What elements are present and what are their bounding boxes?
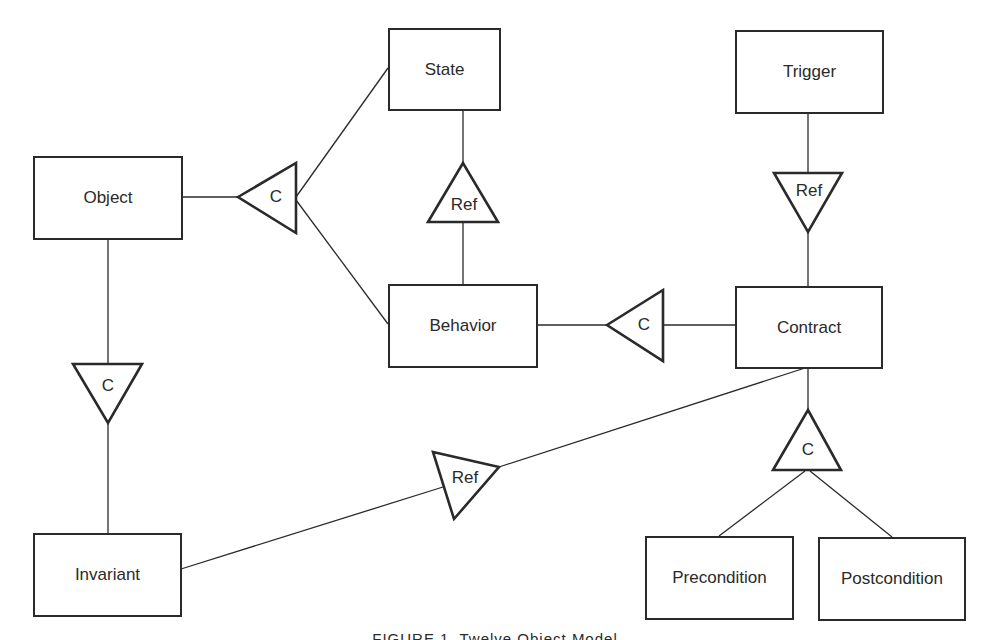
relationship-label: Ref [452,468,478,488]
composition-triangle [607,290,663,361]
entity-label: State [425,60,465,80]
connector-line [719,471,805,536]
relationship-label: C [102,376,114,396]
relationship-label: C [638,315,650,335]
connector-line [499,368,805,467]
relationship-label: C [270,187,282,207]
connector-line [296,68,388,197]
entity-invariant: Invariant [33,533,182,617]
composition-triangle [238,163,296,233]
entity-label: Invariant [75,565,140,585]
entity-precondition: Precondition [645,536,794,620]
entity-contract: Contract [735,286,883,369]
entity-object: Object [33,156,183,240]
entity-label: Precondition [672,568,767,588]
entity-label: Behavior [429,316,496,336]
entity-label: Contract [777,318,841,338]
relationship-label: Ref [451,195,477,215]
entity-state: State [388,28,501,111]
entity-postcondition: Postcondition [818,537,966,621]
connector-line [181,487,443,569]
entity-label: Trigger [783,62,836,82]
er-diagram: State Trigger Object Behavior Contract I… [0,0,990,640]
entity-label: Object [83,188,132,208]
connector-line [296,200,388,324]
entity-trigger: Trigger [735,30,884,114]
relationship-label: C [802,440,814,460]
relationship-label: Ref [796,181,822,201]
entity-behavior: Behavior [388,284,538,368]
entity-label: Postcondition [841,569,943,589]
connector-line [810,471,892,537]
figure-caption: FIGURE 1. Twelve Object Model [0,630,990,640]
